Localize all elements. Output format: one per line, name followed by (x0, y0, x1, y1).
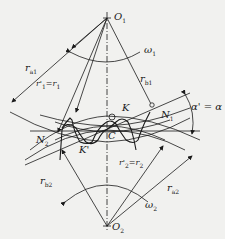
label-o1: O1 (114, 12, 126, 24)
label-alpha: α' = α (191, 102, 222, 112)
label-o2: O2 (112, 222, 124, 234)
label-ra1: ra1 (25, 63, 37, 75)
label-omega2: ω2 (145, 200, 157, 212)
label-omega1: ω1 (144, 45, 156, 57)
label-rb1: rb1 (140, 74, 152, 86)
label-rb2: rb2 (40, 176, 52, 188)
diagram-drawing (0, 0, 225, 239)
label-k: K (122, 103, 129, 113)
label-n2: N2 (36, 135, 49, 147)
label-r2: r'2=r2 (119, 159, 143, 169)
label-k-prime: K' (79, 145, 89, 155)
label-r1: r'1=r1 (36, 80, 60, 90)
gear-meshing-diagram: O1 ω1 ra1 r'1=r1 rb1 K N1 α' = α C N2 K'… (0, 0, 225, 239)
label-ra2: ra2 (167, 183, 179, 195)
label-c: C (108, 131, 116, 141)
label-n1: N1 (161, 110, 174, 122)
